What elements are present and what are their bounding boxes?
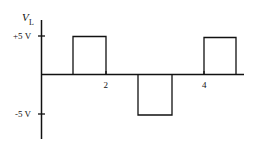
y-axis-label-subscript: L bbox=[29, 18, 34, 27]
x-tick-label-2: 2 bbox=[104, 80, 109, 90]
x-tick-label-4: 4 bbox=[202, 80, 207, 90]
pulse-positive-1 bbox=[73, 37, 106, 75]
pulse-negative bbox=[138, 75, 172, 116]
waveform-diagram: V L +5 V -5 V 2 4 bbox=[0, 0, 255, 147]
y-tick-label-plus5: +5 V bbox=[13, 31, 32, 41]
y-tick-label-minus5: -5 V bbox=[15, 109, 32, 119]
pulse-positive-2 bbox=[204, 38, 236, 75]
